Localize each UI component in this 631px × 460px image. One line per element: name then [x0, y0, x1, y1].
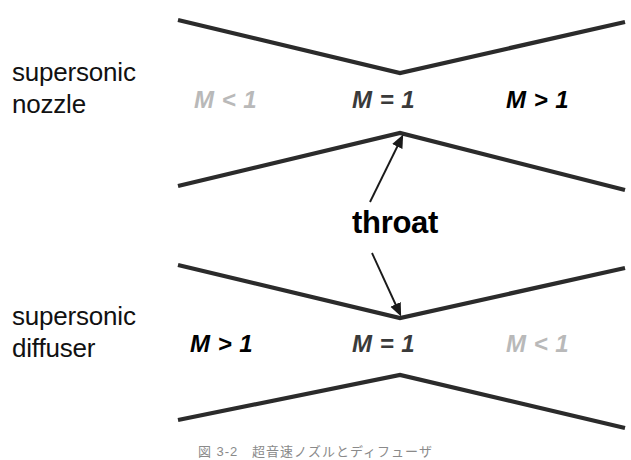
figure-caption: 図 3-2 超音速ノズルとディフューザ [0, 441, 631, 460]
nozzle-upper-wall [178, 20, 625, 73]
diffuser-mach-supersonic-label: M > 1 [190, 330, 253, 358]
supersonic-diffuser-label: supersonic diffuser [12, 300, 136, 364]
nozzle-lower-wall [178, 133, 625, 190]
diffuser-upper-wall [178, 265, 625, 318]
diffuser-lower-wall [178, 375, 625, 428]
throat-arrow-up-icon [370, 137, 402, 202]
throat-arrow-down-icon [372, 253, 400, 314]
diffuser-mach-subsonic-label: M < 1 [506, 330, 569, 358]
nozzle-mach-subsonic-label: M < 1 [194, 86, 257, 114]
supersonic-nozzle-label: supersonic nozzle [12, 56, 136, 120]
diffuser-mach-sonic-label: M = 1 [352, 330, 415, 358]
throat-annotation-label: throat [352, 205, 438, 241]
nozzle-mach-supersonic-label: M > 1 [506, 86, 569, 114]
nozzle-mach-sonic-label: M = 1 [352, 86, 415, 114]
supersonic-nozzle-diffuser-figure: supersonic nozzle supersonic diffuser M … [0, 0, 631, 460]
